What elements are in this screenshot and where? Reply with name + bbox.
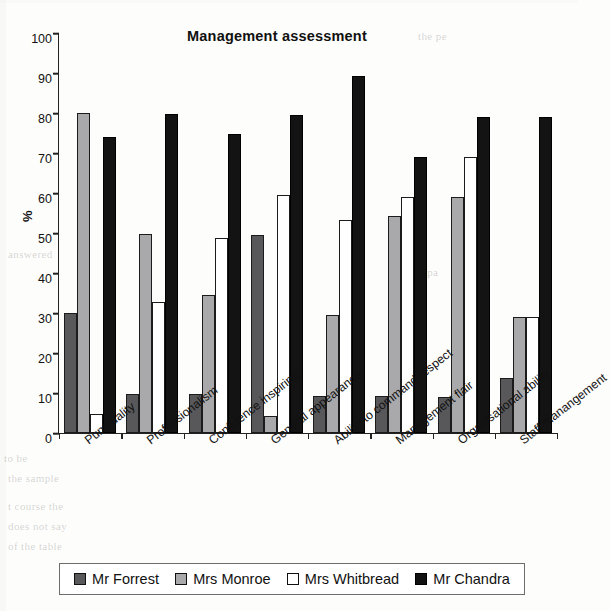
legend-item[interactable]: Mr Chandra bbox=[415, 571, 510, 587]
x-axis-tick-mark bbox=[433, 433, 434, 439]
bar-group bbox=[121, 33, 183, 433]
x-axis-tick-mark bbox=[59, 433, 60, 439]
bar bbox=[477, 117, 490, 433]
bar bbox=[165, 114, 178, 433]
y-axis-label: % bbox=[20, 210, 35, 222]
x-axis-tick-mark bbox=[557, 433, 558, 439]
legend-swatch-forrest-icon bbox=[74, 573, 86, 585]
plot-area: 1009080706050403020100 bbox=[58, 33, 557, 434]
legend-item[interactable]: Mrs Monroe bbox=[175, 571, 270, 587]
bar bbox=[326, 315, 339, 433]
bar bbox=[202, 295, 215, 433]
bar-group bbox=[433, 33, 495, 433]
bar bbox=[277, 195, 290, 433]
x-axis-tick-mark bbox=[370, 433, 371, 439]
x-axis-tick-mark bbox=[246, 433, 247, 439]
x-axis-tick-mark bbox=[121, 433, 122, 439]
bar bbox=[513, 317, 526, 433]
bar bbox=[139, 234, 152, 433]
bar-group bbox=[246, 33, 308, 433]
bar bbox=[152, 302, 165, 433]
x-axis-tick-mark bbox=[495, 433, 496, 439]
bar-group bbox=[59, 33, 121, 433]
legend-label: Mr Forrest bbox=[92, 571, 159, 587]
bar bbox=[228, 134, 241, 433]
bar bbox=[339, 220, 352, 433]
legend-swatch-whitbread-icon bbox=[287, 573, 299, 585]
bar bbox=[414, 157, 427, 433]
legend-item[interactable]: Mr Forrest bbox=[74, 571, 159, 587]
legend-item[interactable]: Mrs Whitbread bbox=[287, 571, 399, 587]
legend-swatch-monroe-icon bbox=[175, 573, 187, 585]
legend-label: Mrs Monroe bbox=[193, 571, 270, 587]
bar bbox=[401, 197, 414, 433]
bar bbox=[103, 137, 116, 433]
chart-legend: Mr ForrestMrs MonroeMrs WhitbreadMr Chan… bbox=[59, 563, 525, 595]
bar-group bbox=[308, 33, 370, 433]
bar bbox=[77, 113, 90, 433]
legend-label: Mrs Whitbread bbox=[305, 571, 399, 587]
x-axis-tick-mark bbox=[308, 433, 309, 439]
legend-swatch-chandra-icon bbox=[415, 573, 427, 585]
bar bbox=[64, 313, 77, 433]
x-axis-tick-mark bbox=[184, 433, 185, 439]
bar-group bbox=[184, 33, 246, 433]
legend-label: Mr Chandra bbox=[433, 571, 510, 587]
bar-groups bbox=[59, 33, 557, 433]
bar bbox=[215, 238, 228, 433]
